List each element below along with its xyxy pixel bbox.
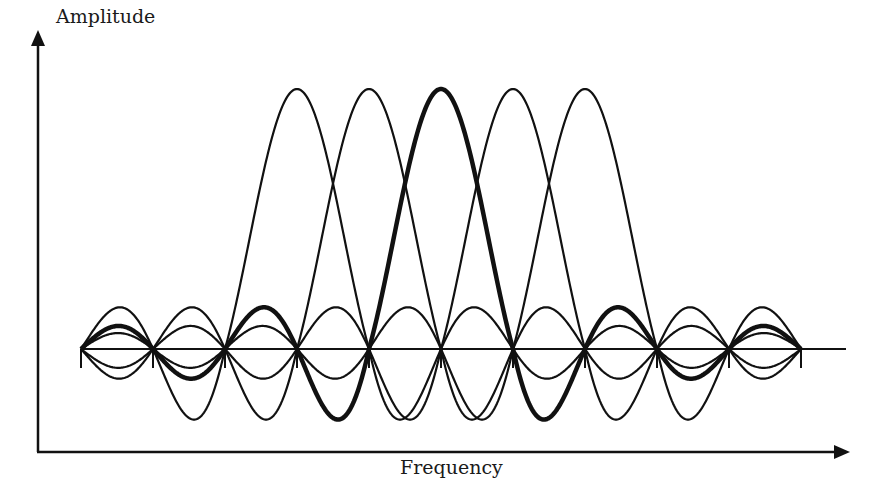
y-axis-arrow-icon [31,30,45,46]
subcarrier-5-curve [81,89,801,420]
subcarrier-1-curve [81,89,801,420]
subcarrier-3-highlighted-curve [81,89,801,420]
subcarrier-curves [81,89,801,420]
axes [31,30,850,459]
subcarrier-4-curve [81,89,801,420]
x-axis-label: Frequency [400,456,503,478]
ofdm-spectrum-diagram [0,0,875,498]
subcarrier-2-curve [81,89,801,420]
y-axis-label: Amplitude [56,5,155,27]
x-axis-arrow-icon [834,445,850,459]
